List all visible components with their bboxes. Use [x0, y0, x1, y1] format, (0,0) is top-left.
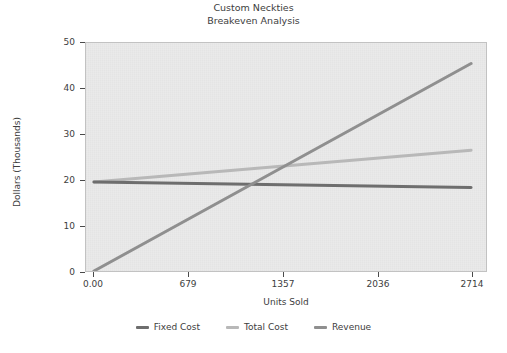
y-tick-label-40: 40	[35, 83, 75, 93]
x-tick-label-679: 679	[153, 279, 223, 289]
breakeven-chart: Custom Neckties Breakeven Analysis Dolla…	[0, 0, 507, 353]
y-tick-mark-0	[80, 272, 85, 273]
legend-item-fixed-cost[interactable]: Fixed Cost	[136, 322, 200, 332]
legend-label-revenue: Revenue	[332, 322, 371, 332]
x-tick-label-1357: 1357	[248, 279, 318, 289]
x-tick-label-0: 0.00	[58, 279, 128, 289]
chart-title-line-2: Breakeven Analysis	[0, 15, 507, 28]
legend-label-fixed-cost: Fixed Cost	[154, 322, 200, 332]
x-tick-mark-0	[93, 272, 94, 277]
x-tick-mark-2714	[472, 272, 473, 277]
series-canvas	[86, 43, 486, 271]
y-tick-label-20: 20	[35, 175, 75, 185]
y-axis-title: Dollars (Thousands)	[12, 82, 22, 242]
x-tick-label-2036: 2036	[343, 279, 413, 289]
series-line-revenue	[94, 64, 471, 271]
x-axis-title: Units Sold	[85, 297, 487, 307]
x-tick-mark-2036	[378, 272, 379, 277]
y-tick-label-10: 10	[35, 221, 75, 231]
chart-title: Custom Neckties Breakeven Analysis	[0, 2, 507, 27]
series-line-fixed-cost	[94, 182, 471, 187]
chart-title-line-1: Custom Neckties	[0, 2, 507, 15]
x-tick-mark-1357	[283, 272, 284, 277]
legend-swatch-fixed-cost	[136, 326, 149, 329]
chart-legend: Fixed Cost Total Cost Revenue	[0, 322, 507, 332]
legend-swatch-revenue	[314, 326, 327, 329]
legend-item-revenue[interactable]: Revenue	[314, 322, 371, 332]
legend-label-total-cost: Total Cost	[244, 322, 288, 332]
x-tick-mark-679	[188, 272, 189, 277]
y-tick-label-0: 0	[35, 267, 75, 277]
legend-swatch-total-cost	[226, 326, 239, 329]
y-tick-label-50: 50	[35, 37, 75, 47]
x-tick-label-2714: 2714	[437, 279, 507, 289]
legend-item-total-cost[interactable]: Total Cost	[226, 322, 288, 332]
y-tick-label-30: 30	[35, 129, 75, 139]
plot-area	[85, 42, 487, 272]
